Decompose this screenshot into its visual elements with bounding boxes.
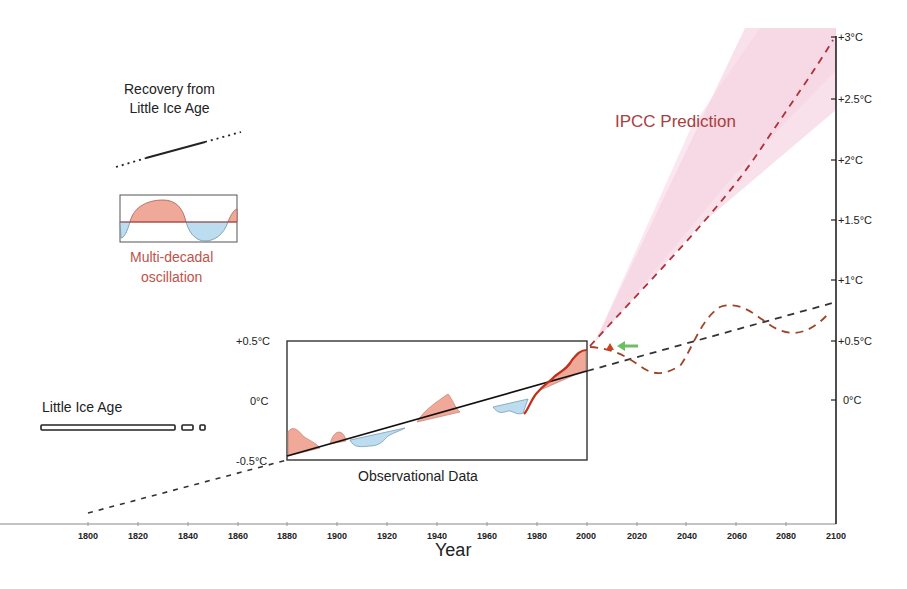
oscillation-label-line2: oscillation [130,267,213,287]
x-tick: 1920 [377,531,397,541]
x-tick: 2060 [727,531,747,541]
right-tick-3: +3°C [838,31,863,43]
green-arrow-icon [617,341,638,351]
right-tick-0-5: +0.5°C [838,335,872,347]
x-tick: 1940 [427,531,447,541]
oscillation-legend-box [120,195,237,242]
inset-tick-0: 0°C [250,395,268,407]
recovery-label: Recovery from Little Ice Age [124,80,215,118]
x-tick: 1860 [228,531,248,541]
x-tick: 2020 [627,531,647,541]
little-ice-age-label: Little Ice Age [42,399,122,415]
inset-tick-plus-0-5: +0.5°C [236,335,270,347]
recovery-legend-line [116,132,241,167]
oscillation-label: Multi-decadal oscillation [130,247,213,287]
inset-tick-minus-0-5: -0.5°C [236,455,267,467]
x-tick: 1900 [327,531,347,541]
x-tick: 1980 [527,531,547,541]
right-tick-1: +1°C [838,274,863,286]
trend-dashed-future [587,302,836,371]
current-temp-marker [606,343,614,350]
x-tick: 1800 [78,531,98,541]
x-tick: 2040 [677,531,697,541]
x-tick: 1840 [178,531,198,541]
x-tick: 2100 [826,531,846,541]
recovery-label-line1: Recovery from [124,80,215,99]
x-tick: 1960 [477,531,497,541]
little-ice-age-bars [41,425,205,430]
trend-dashed-early [88,460,287,513]
right-tick-0: 0°C [843,394,861,406]
recovery-label-line2: Little Ice Age [124,99,215,118]
right-tick-2-5: +2.5°C [838,93,872,105]
x-tick: 1880 [277,531,297,541]
x-tick-labels: 1800 1820 1840 1860 1880 1900 1920 1940 … [0,531,907,545]
right-tick-1-5: +1.5°C [838,214,872,226]
observational-inset [287,341,587,460]
ipcc-prediction-label: IPCC Prediction [615,112,736,132]
observational-data-label: Observational Data [358,468,478,484]
x-tick: 1820 [128,531,148,541]
x-tick: 2000 [576,531,596,541]
oscillation-label-line1: Multi-decadal [130,247,213,267]
ipcc-uncertainty-band-inner [595,28,836,342]
right-tick-2: +2°C [838,154,863,166]
x-tick: 2080 [776,531,796,541]
oscillation-projection-line [590,305,830,373]
